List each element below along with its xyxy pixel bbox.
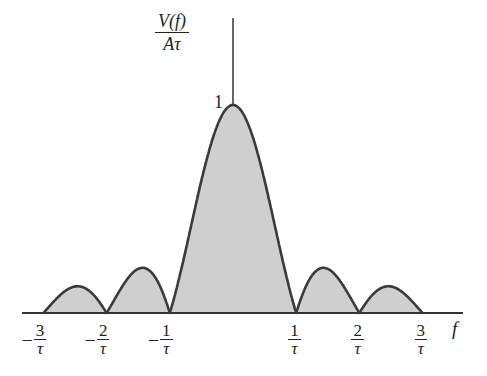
tick-denominator: τ	[418, 340, 424, 358]
x-tick-label: 2τ	[351, 322, 364, 358]
x-axis-label: f	[452, 318, 457, 340]
tick-denominator: τ	[163, 340, 169, 358]
x-tick-label: 1τ	[288, 322, 301, 358]
tick-denominator: τ	[355, 340, 361, 358]
spectrum-plot	[0, 0, 487, 376]
tick-numerator: 1	[160, 322, 173, 340]
tick-numerator: 3	[34, 322, 47, 340]
y-tick-1: 1	[214, 92, 223, 113]
y-axis-label: V(f) Aτ	[155, 10, 189, 55]
tick-numerator: 2	[97, 322, 110, 340]
x-tick-label: 3τ	[415, 322, 428, 358]
minus-sign: −	[21, 329, 32, 352]
minus-sign: −	[148, 329, 159, 352]
tick-numerator: 3	[415, 322, 428, 340]
x-tick-label: −2τ	[85, 322, 110, 358]
tick-numerator: 1	[288, 322, 301, 340]
tick-denominator: τ	[291, 340, 297, 358]
x-tick-label: −3τ	[21, 322, 46, 358]
y-axis-label-denominator: Aτ	[163, 33, 180, 55]
minus-sign: −	[85, 329, 96, 352]
y-axis-label-numerator: V(f)	[155, 10, 189, 33]
x-tick-label: −1τ	[148, 322, 173, 358]
tick-denominator: τ	[37, 340, 43, 358]
sinc-magnitude-area	[43, 105, 422, 313]
tick-numerator: 2	[351, 322, 364, 340]
tick-denominator: τ	[100, 340, 106, 358]
